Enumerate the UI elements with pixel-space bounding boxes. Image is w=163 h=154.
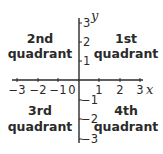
quadrant-3-label-line2: quadrant [8, 119, 73, 134]
coordinate-plane: −3 −2 −1 0 1 2 3 x 3 2 1 −1 −2 −3 y 2nd … [0, 0, 163, 154]
quadrant-2-label-line2: quadrant [8, 46, 73, 61]
y-tick-label: −3 [81, 132, 98, 146]
quadrant-1-label-line2: quadrant [94, 46, 159, 61]
origin-label: 0 [68, 83, 75, 97]
quadrant-3-label-line1: 3rd [28, 103, 52, 118]
x-tick-label: −3 [9, 83, 26, 97]
y-axis-label: y [90, 8, 99, 23]
quadrant-2-label-line1: 2nd [27, 31, 54, 46]
y-tick-label: 1 [83, 54, 90, 68]
quadrant-4-label-line2: quadrant [94, 119, 159, 134]
x-tick-label: 3 [136, 83, 143, 97]
x-tick-label: −1 [50, 83, 67, 97]
y-tick-label: 3 [83, 16, 90, 30]
y-tick-label: −1 [81, 93, 98, 107]
quadrant-1-label-line1: 1st [115, 31, 137, 46]
quadrant-4-label-line1: 4th [114, 103, 138, 118]
x-tick-label: 2 [116, 83, 123, 97]
x-axis-label: x [146, 82, 154, 97]
x-tick-label: −2 [30, 83, 47, 97]
y-tick-label: 2 [83, 35, 90, 49]
